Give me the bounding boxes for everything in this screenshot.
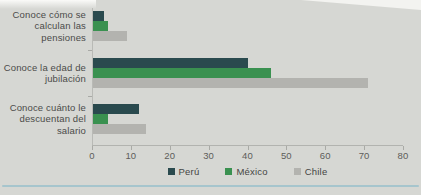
scanned-bar-chart: Conoce cómo se calculan las pensionesCon… bbox=[0, 0, 421, 195]
legend-label-mexico: México bbox=[236, 166, 267, 177]
bar-mexico-cat0 bbox=[92, 21, 108, 31]
legend: PerúMéxicoChile bbox=[92, 166, 403, 177]
bar-peru-cat0 bbox=[92, 11, 104, 21]
legend-item-peru: Perú bbox=[168, 166, 200, 177]
x-tick-label-30: 30 bbox=[197, 150, 221, 161]
category-label-1: Conoce la edad de jubilación bbox=[0, 58, 86, 88]
bar-mexico-cat1 bbox=[92, 68, 271, 78]
bar-chile-cat1 bbox=[92, 78, 368, 88]
legend-label-peru: Perú bbox=[179, 166, 200, 177]
bar-peru-cat1 bbox=[92, 58, 248, 68]
x-tick-label-50: 50 bbox=[274, 150, 298, 161]
y-axis-line bbox=[92, 8, 93, 145]
legend-swatch-mexico bbox=[225, 168, 232, 175]
x-tick-label-60: 60 bbox=[313, 150, 337, 161]
x-tick-label-70: 70 bbox=[352, 150, 376, 161]
legend-item-mexico: México bbox=[225, 166, 267, 177]
bar-mexico-cat2 bbox=[92, 114, 108, 124]
bar-chile-cat2 bbox=[92, 124, 146, 134]
legend-label-chile: Chile bbox=[305, 166, 328, 177]
legend-swatch-peru bbox=[168, 168, 175, 175]
legend-swatch-chile bbox=[294, 168, 301, 175]
category-separator-tick-0 bbox=[88, 50, 92, 51]
x-tick-label-10: 10 bbox=[119, 150, 143, 161]
category-separator-tick-1 bbox=[88, 96, 92, 97]
legend-item-chile: Chile bbox=[294, 166, 328, 177]
x-tick-label-20: 20 bbox=[158, 150, 182, 161]
bar-chile-cat0 bbox=[92, 31, 127, 41]
category-label-2: Conoce cuánto le descuentan del salario bbox=[0, 104, 86, 134]
bar-peru-cat2 bbox=[92, 104, 139, 114]
x-tick-label-40: 40 bbox=[236, 150, 260, 161]
bottom-rule bbox=[2, 185, 419, 187]
x-tick-label-80: 80 bbox=[391, 150, 415, 161]
x-tick-label-0: 0 bbox=[80, 150, 104, 161]
category-label-0: Conoce cómo se calculan las pensiones bbox=[0, 11, 86, 41]
